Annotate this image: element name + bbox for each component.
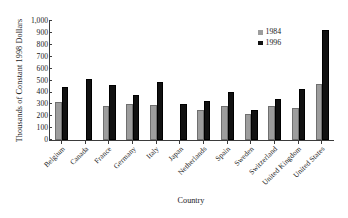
x-axis-title: Country	[49, 196, 333, 205]
y-axis-tick-label: 500	[4, 77, 48, 85]
bar-1996[interactable]	[133, 95, 139, 140]
bar-group	[50, 21, 74, 140]
bar-group	[74, 21, 98, 140]
bar-1996[interactable]	[275, 99, 281, 140]
bar-group	[121, 21, 145, 140]
y-axis-tick-label: 1,000	[4, 17, 48, 25]
legend-label: 1984	[266, 27, 282, 38]
bar-group	[168, 21, 192, 140]
bar-group	[287, 21, 311, 140]
bar-1996[interactable]	[62, 87, 68, 140]
x-axis-label-cell: Netherlands	[191, 143, 215, 193]
x-axis-labels: BelgiumCanadaFranceGermanyItalyJapanNeth…	[49, 143, 333, 193]
bar-group	[145, 21, 169, 140]
legend-swatch-icon	[258, 41, 263, 46]
x-axis-label-cell: Canada	[73, 143, 97, 193]
bar-1996[interactable]	[322, 30, 328, 140]
y-axis-tick-label: 600	[4, 65, 48, 73]
x-axis-tick-label: Belgium	[42, 145, 66, 169]
y-axis-tick-label: 200	[4, 112, 48, 120]
y-axis-tick-label: 400	[4, 88, 48, 96]
y-axis-tick-label: 0	[4, 136, 48, 144]
y-axis-tick-label: 300	[4, 100, 48, 108]
plot-area: 1,0009008007006005004003002001000	[49, 21, 334, 141]
bar-chart: Thousands of Constant 1998 Dollars 1,000…	[0, 0, 348, 218]
x-axis-label-cell: Spain	[215, 143, 239, 193]
bar-1996[interactable]	[180, 104, 186, 140]
x-axis-tick-label: France	[94, 145, 114, 165]
bar-1996[interactable]	[157, 82, 163, 140]
bar-group	[216, 21, 240, 140]
bar-group	[310, 21, 334, 140]
bar-1996[interactable]	[204, 101, 210, 140]
bar-group	[97, 21, 121, 140]
bar-1996[interactable]	[228, 92, 234, 140]
x-axis-tick-label: Japan	[167, 145, 185, 163]
legend-swatch-icon	[258, 30, 263, 35]
bar-1996[interactable]	[86, 79, 92, 140]
bar-1996[interactable]	[251, 110, 257, 140]
legend: 1984 1996	[258, 27, 281, 48]
y-axis-tick-label: 900	[4, 29, 48, 37]
x-axis-label-cell: Italy	[144, 143, 168, 193]
x-axis-label-cell: United States	[309, 143, 333, 193]
x-axis-tick-label: Italy	[146, 145, 162, 161]
bar-groups	[50, 21, 334, 140]
legend-item-1984[interactable]: 1984	[258, 27, 281, 38]
bar-1996[interactable]	[109, 85, 115, 140]
legend-label: 1996	[266, 38, 282, 49]
bar-group	[192, 21, 216, 140]
bar-1996[interactable]	[299, 89, 305, 140]
x-axis-label-cell: Germany	[120, 143, 144, 193]
x-axis-label-cell: Belgium	[49, 143, 73, 193]
y-axis-tick-label: 800	[4, 41, 48, 49]
y-axis-tick-label: 700	[4, 53, 48, 61]
y-axis-tick-label: 100	[4, 124, 48, 132]
legend-item-1996[interactable]: 1996	[258, 38, 281, 49]
x-axis-tick-label: Spain	[214, 145, 232, 163]
